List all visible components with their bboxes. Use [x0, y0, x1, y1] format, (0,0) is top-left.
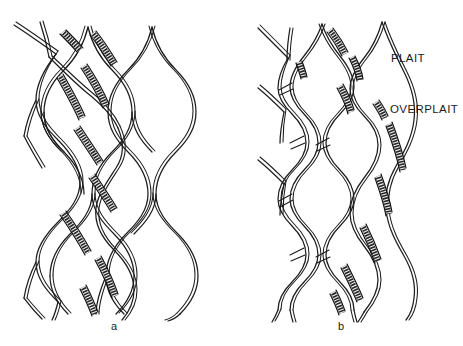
overplait-label: OVERPLAIT	[390, 103, 458, 115]
panel-b-caption: b	[338, 320, 344, 332]
panel-a-caption: a	[111, 320, 118, 332]
figure-root: PLAIT OVERPLAIT a b	[0, 0, 463, 346]
netting-diagram-svg: PLAIT OVERPLAIT a b	[0, 0, 463, 346]
plait-label: PLAIT	[391, 52, 425, 64]
